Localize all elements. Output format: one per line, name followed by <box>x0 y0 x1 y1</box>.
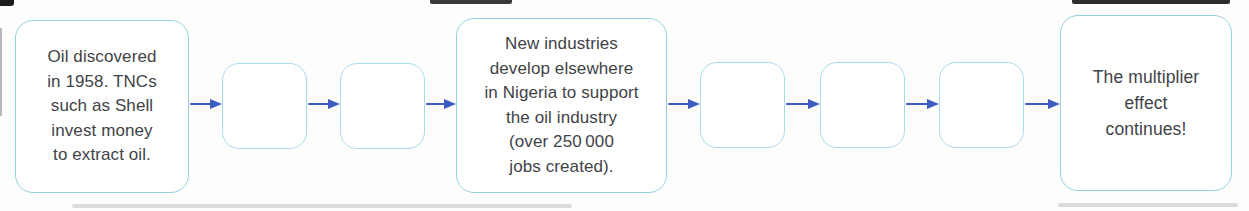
scan-artifact-bottom-left-shadow <box>72 204 572 208</box>
flow-box-blank-5 <box>939 62 1024 148</box>
scan-artifact-left-edge <box>0 28 2 116</box>
arrowhead-right-icon <box>808 99 820 109</box>
flow-box-multiplier-effect: The multiplier effect continues! <box>1060 15 1232 191</box>
flow-arrow-3 <box>426 96 456 112</box>
flow-arrow-7 <box>1025 96 1060 112</box>
arrow-shaft <box>786 103 810 106</box>
arrowhead-right-icon <box>688 99 700 109</box>
flow-arrow-4 <box>668 96 700 112</box>
arrowhead-right-icon <box>444 99 456 109</box>
flow-box-blank-2 <box>340 63 425 149</box>
arrow-shaft <box>1025 103 1050 106</box>
arrow-shaft <box>668 103 690 106</box>
arrowhead-right-icon <box>328 99 340 109</box>
flow-arrow-5 <box>786 96 820 112</box>
flow-box-new-industries-text: New industries develop elsewhere in Nige… <box>484 32 638 179</box>
arrow-shaft <box>426 103 446 106</box>
flow-box-blank-1 <box>222 63 307 149</box>
arrow-shaft <box>308 103 330 106</box>
arrowhead-right-icon <box>927 99 939 109</box>
flow-box-multiplier-effect-text: The multiplier effect continues! <box>1093 64 1199 142</box>
flow-box-blank-4 <box>820 62 905 148</box>
flow-box-blank-3 <box>700 62 785 148</box>
flow-box-oil-discovered: Oil discovered in 1958. TNCs such as She… <box>15 20 189 193</box>
flowchart-canvas: Oil discovered in 1958. TNCs such as She… <box>0 0 1249 211</box>
scan-artifact-bottom-right-shadow <box>1058 203 1238 207</box>
scan-artifact-top-right <box>1072 0 1230 4</box>
flow-arrow-2 <box>308 96 340 112</box>
scan-artifact-top-middle <box>430 0 512 4</box>
flow-arrow-1 <box>190 96 222 112</box>
arrowhead-right-icon <box>1048 99 1060 109</box>
scan-artifact-top-left <box>0 0 14 6</box>
arrowhead-right-icon <box>210 99 222 109</box>
arrow-shaft <box>906 103 929 106</box>
flow-box-oil-discovered-text: Oil discovered in 1958. TNCs such as She… <box>47 45 157 168</box>
flow-box-new-industries: New industries develop elsewhere in Nige… <box>456 18 667 193</box>
arrow-shaft <box>190 103 212 106</box>
flow-arrow-6 <box>906 96 939 112</box>
